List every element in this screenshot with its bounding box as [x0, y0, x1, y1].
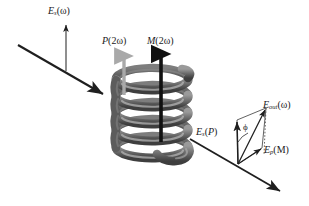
label-polarization: P(2ω) — [102, 36, 126, 46]
incident-beam-arrow — [18, 45, 103, 94]
label-s-component: Es(P) — [196, 127, 217, 138]
label-output-field: Eout(ω) — [263, 100, 291, 111]
s-component-vector — [237, 122, 238, 164]
chiral-helix — [115, 68, 191, 161]
label-incident-field: Es(ω) — [48, 6, 70, 17]
label-phi-angle: ϕ — [243, 122, 248, 132]
label-p-component: Ep(M) — [264, 145, 289, 156]
vector-decomposition — [237, 108, 266, 164]
figure-shg-chiral-helix: Es(ω) P(2ω) M(2ω) Eout(ω) Es(P) Ep(M) ϕ — [0, 0, 309, 206]
label-magnetization: M(2ω) — [147, 36, 174, 46]
